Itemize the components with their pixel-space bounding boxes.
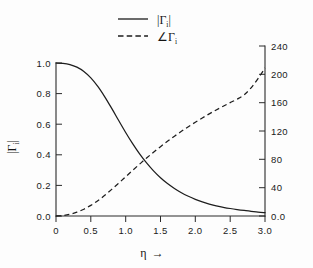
y-left-ticklabel-0: 0.0 (37, 211, 51, 222)
y-right-ticklabel-6: 240 (271, 41, 288, 52)
x-axis-ticks: 0 0.5 1.0 1.5 2.0 2.5 3.0 (53, 216, 272, 236)
axes-frame (56, 46, 265, 216)
y-right-ticklabel-1: 40 (271, 182, 282, 193)
y-axis-left-ticks: 0.0 0.2 0.4 0.6 0.8 1.0 (37, 58, 62, 222)
legend-label-magnitude: |Γi| (157, 13, 171, 29)
y-right-ticklabel-4: 160 (271, 97, 288, 108)
x-axis-title: η→ (140, 246, 163, 260)
y-left-ticklabel-2: 0.4 (37, 149, 51, 160)
y-right-ticklabel-0: 0.0 (271, 211, 285, 222)
legend: |Γi| ∠Γi (118, 13, 177, 46)
y-right-ticklabel-2: 80 (271, 154, 282, 165)
y-left-ticklabel-5: 1.0 (37, 58, 51, 69)
x-ticklabel-5: 2.5 (223, 225, 237, 236)
y-right-ticklabel-3: 120 (271, 126, 288, 137)
curve-magnitude (56, 63, 265, 213)
legend-label-phase: ∠Γi (157, 30, 177, 46)
x-ticklabel-3: 1.5 (153, 225, 167, 236)
axis-titles: |Γi| η→ (5, 140, 164, 260)
figure-panel: |Γi| ∠Γi 0.0 0.2 0.4 0.6 0.8 1.0 (0, 0, 313, 268)
y-axis-left-title: |Γi| (5, 140, 21, 154)
x-ticklabel-4: 2.0 (188, 225, 202, 236)
y-left-ticklabel-3: 0.6 (37, 119, 51, 130)
curve-phase (56, 68, 265, 216)
x-ticklabel-6: 3.0 (258, 225, 272, 236)
chart-svg: |Γi| ∠Γi 0.0 0.2 0.4 0.6 0.8 1.0 (0, 0, 313, 268)
y-left-ticklabel-1: 0.2 (37, 180, 51, 191)
data-curves (56, 63, 265, 216)
y-right-ticklabel-5: 200 (271, 69, 288, 80)
x-ticklabel-0: 0 (53, 225, 59, 236)
x-ticklabel-1: 0.5 (84, 225, 98, 236)
x-ticklabel-2: 1.0 (118, 225, 132, 236)
y-left-ticklabel-4: 0.8 (37, 88, 51, 99)
y-axis-right-ticks: 0.0 40 80 120 160 200 240 (259, 41, 288, 222)
